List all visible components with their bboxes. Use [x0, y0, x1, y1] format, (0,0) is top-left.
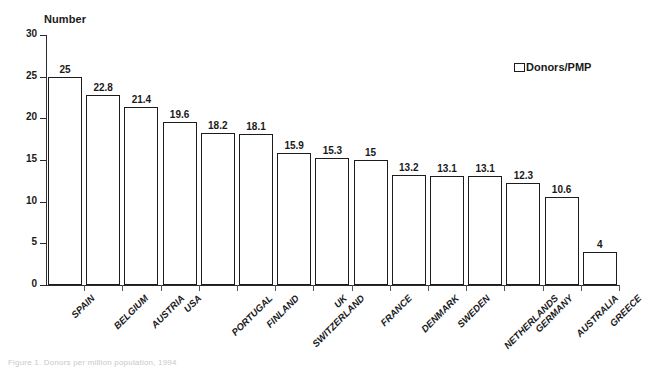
- x-axis-tick-mark: [581, 285, 582, 291]
- y-axis-tick-label: 30: [26, 28, 37, 39]
- bar[interactable]: 12.3: [506, 183, 540, 286]
- bar[interactable]: 15.3: [315, 158, 349, 286]
- x-axis-tick-mark: [428, 285, 429, 291]
- x-axis-category-label: DENMARK: [420, 291, 462, 333]
- bar-value-label: 22.8: [93, 82, 112, 93]
- y-axis-title: Number: [44, 13, 86, 25]
- y-axis-tick-label: 20: [26, 111, 37, 122]
- bar[interactable]: 18.2: [201, 133, 235, 285]
- x-axis-category-label-text: PORTUGAL: [229, 292, 274, 337]
- bar-value-label: 12.3: [514, 170, 533, 181]
- bar[interactable]: 13.1: [430, 176, 464, 285]
- x-axis-tick-mark: [390, 285, 391, 291]
- x-axis-tick-mark: [619, 285, 620, 291]
- y-axis-tick-label: 25: [26, 70, 37, 81]
- x-axis-category-label: SWEDEN: [456, 291, 493, 328]
- bar-value-label: 19.6: [170, 109, 189, 120]
- x-axis-tick-mark: [161, 285, 162, 291]
- figure-caption: Figure 1. Donors per million population,…: [8, 358, 177, 367]
- x-axis-category-label-text: AUSTRIA: [149, 292, 187, 330]
- x-axis-category-label: FRANCE: [379, 291, 415, 327]
- bar-value-label: 21.4: [132, 94, 151, 105]
- bar[interactable]: 15: [354, 160, 388, 285]
- x-axis-category-label: PORTUGAL: [230, 291, 275, 336]
- x-axis-tick-mark: [84, 285, 85, 291]
- bar-value-label: 18.2: [208, 120, 227, 131]
- bar[interactable]: 19.6: [163, 122, 197, 285]
- plot-area: 051015202530 2522.821.419.618.218.115.91…: [46, 35, 630, 285]
- bar-value-label: 15: [365, 147, 376, 158]
- x-axis-category-label: SPAIN: [70, 291, 98, 319]
- bar-value-label: 13.2: [399, 162, 418, 173]
- y-axis-tick-mark: [40, 35, 46, 36]
- y-axis-tick-mark: [40, 160, 46, 161]
- x-axis-category-label-text: SPAIN: [69, 292, 97, 320]
- x-axis-tick-mark: [237, 285, 238, 291]
- bar[interactable]: 13.1: [468, 176, 502, 285]
- x-axis-tick-mark: [199, 285, 200, 291]
- bar-value-label: 13.1: [475, 163, 494, 174]
- bar[interactable]: 15.9: [277, 153, 311, 286]
- x-axis-tick-mark: [352, 285, 353, 291]
- y-axis-tick-mark: [40, 118, 46, 119]
- bar-value-label: 25: [59, 64, 70, 75]
- y-axis-tick-label: 5: [31, 236, 37, 247]
- bar[interactable]: 21.4: [124, 107, 158, 285]
- x-axis-tick-mark: [543, 285, 544, 291]
- x-axis-tick-mark: [466, 285, 467, 291]
- x-axis-tick-mark: [504, 285, 505, 291]
- bar-value-label: 15.9: [284, 140, 303, 151]
- y-axis-tick-label: 0: [31, 278, 37, 289]
- y-axis-tick-mark: [40, 285, 46, 286]
- x-axis-category-label-text: BELGIUM: [112, 292, 151, 331]
- x-axis-tick-mark: [275, 285, 276, 291]
- bar-value-label: 4: [597, 239, 603, 250]
- x-axis-tick-mark: [313, 285, 314, 291]
- bar[interactable]: 18.1: [239, 134, 273, 285]
- x-axis-category-label-text: FRANCE: [378, 292, 414, 328]
- x-axis-category-label: USA: [182, 291, 204, 313]
- y-axis-tick-label: 15: [26, 153, 37, 164]
- y-axis-tick-mark: [40, 243, 46, 244]
- x-axis-category-label: AUSTRIA: [151, 291, 189, 329]
- y-axis-tick-label: 10: [26, 195, 37, 206]
- y-axis-line: [46, 35, 47, 285]
- bar[interactable]: 22.8: [86, 95, 120, 285]
- x-axis-line: [46, 285, 620, 286]
- bar-value-label: 18.1: [246, 121, 265, 132]
- bar-value-label: 15.3: [323, 145, 342, 156]
- x-axis-category-label: BELGIUM: [113, 291, 152, 330]
- x-axis-tick-mark: [122, 285, 123, 291]
- bar-value-label: 13.1: [437, 163, 456, 174]
- bar-chart-figure: Number Donors/PMP 051015202530 2522.821.…: [0, 0, 659, 371]
- x-axis-category-label-text: DENMARK: [419, 292, 461, 334]
- bar[interactable]: 4: [583, 252, 617, 285]
- bar[interactable]: 10.6: [545, 197, 579, 285]
- bar-value-label: 10.6: [552, 184, 571, 195]
- bar[interactable]: 13.2: [392, 175, 426, 285]
- bar[interactable]: 25: [48, 77, 82, 285]
- y-axis-tick-mark: [40, 202, 46, 203]
- y-axis-tick-mark: [40, 77, 46, 78]
